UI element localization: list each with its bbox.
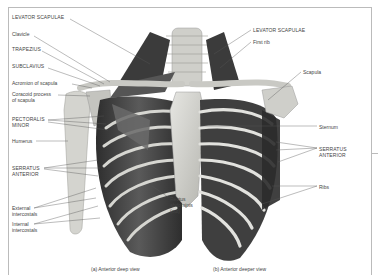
label-scapula: Scapula xyxy=(303,69,321,75)
label-internal-intercostals-line2: intercostals xyxy=(12,227,37,233)
label-clavicle: Clavicle xyxy=(12,31,30,37)
label-rectus-abdominis: Rectus abdominis (cut) xyxy=(170,196,193,214)
label-levator-scapulae-left: LEVATOR SCAPULAE xyxy=(12,14,64,20)
label-external-intercostals-line2: intercostals xyxy=(12,211,37,217)
caption-a: (a) Anterior deep view xyxy=(91,266,140,272)
label-trapezius: TRAPEZIUS xyxy=(12,46,41,52)
label-ribs: Ribs xyxy=(319,184,329,190)
label-coracoid-line2: of scapula xyxy=(12,97,51,103)
label-subclavius: SUBCLAVIUS xyxy=(12,63,44,69)
clavicles xyxy=(80,82,288,88)
label-acromion: Acromion of scapula xyxy=(12,80,57,86)
label-serratus-anterior-right-line2: ANTERIOR xyxy=(319,152,347,158)
label-serratus-anterior-left-line2: ANTERIOR xyxy=(12,171,40,177)
label-coracoid: Coracoid process of scapula xyxy=(12,91,51,103)
label-pectoralis-minor: PECTORALIS MINOR xyxy=(12,116,45,128)
thorax-illustration xyxy=(0,0,378,275)
caption-b: (b) Anterior deeper view xyxy=(213,266,266,272)
label-external-intercostals: External intercostals xyxy=(12,205,37,217)
right-ribcage xyxy=(200,99,280,261)
label-rectus-abdominis-line3: (cut) xyxy=(170,208,193,214)
label-serratus-anterior-left: SERRATUS ANTERIOR xyxy=(12,165,40,177)
label-sternum: Sternum xyxy=(319,124,338,130)
label-levator-scapulae-right: LEVATOR SCAPULAE xyxy=(253,27,305,33)
left-ribcage xyxy=(96,97,182,257)
label-pectoralis-minor-line2: MINOR xyxy=(12,122,45,128)
label-humerus: Humerus xyxy=(12,138,32,144)
label-serratus-anterior-right: SERRATUS ANTERIOR xyxy=(319,146,347,158)
label-first-rib: First rib xyxy=(253,39,270,45)
humerus xyxy=(64,91,90,234)
label-internal-intercostals: Internal intercostals xyxy=(12,221,37,233)
